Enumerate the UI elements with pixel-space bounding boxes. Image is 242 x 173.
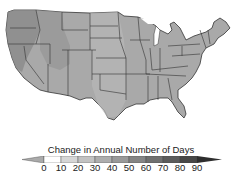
tick-label: 70 bbox=[158, 162, 169, 173]
tick-label: 40 bbox=[107, 162, 118, 173]
colorbar-ticks: 0 10 20 30 40 50 60 70 80 90 bbox=[0, 162, 242, 173]
tick-label: 80 bbox=[175, 162, 186, 173]
tick-label: 60 bbox=[141, 162, 152, 173]
tick-label: 10 bbox=[56, 162, 67, 173]
legend-title: Change in Annual Number of Days bbox=[0, 144, 242, 155]
tick-label: 50 bbox=[124, 162, 135, 173]
tick-label: 30 bbox=[90, 162, 101, 173]
us-map bbox=[0, 0, 242, 140]
tick-label: 20 bbox=[73, 162, 84, 173]
tick-label: 90 bbox=[192, 162, 203, 173]
tick-label: 0 bbox=[41, 162, 46, 173]
